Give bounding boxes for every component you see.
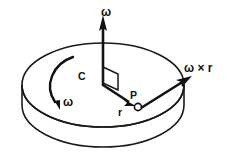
label-center-c: C [78, 70, 86, 82]
label-omega-axis: ω [101, 5, 111, 19]
rotating-disk-figure: ω ω C r P ω × r [0, 0, 227, 163]
label-radius-r: r [118, 106, 122, 118]
label-point-p: P [130, 89, 137, 101]
spin-arc-arrowhead [51, 95, 60, 110]
label-omega-cross-r: ω × r [184, 61, 213, 75]
rotating-disk-diagram: ω ω C r P ω × r [0, 0, 227, 163]
cross-vector-shaft [141, 81, 184, 108]
label-omega-spin: ω [63, 95, 73, 109]
disk-top-face-lower-arc [22, 85, 184, 127]
radius-vector-shaft [103, 85, 129, 102]
disk-bottom-edge [22, 105, 184, 147]
